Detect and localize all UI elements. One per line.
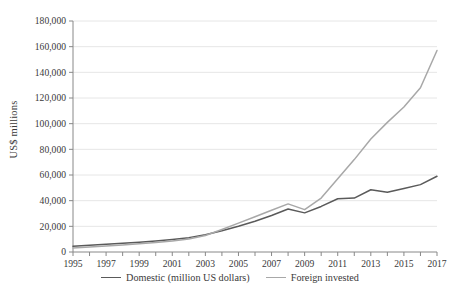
y-tick-label: 120,000 bbox=[35, 92, 66, 103]
x-tick-label: 2007 bbox=[262, 258, 281, 269]
gridline-group bbox=[73, 21, 437, 226]
x-tick-label: 1997 bbox=[96, 258, 115, 269]
x-tick-label: 2015 bbox=[394, 258, 413, 269]
y-tick-label: 80,000 bbox=[40, 144, 67, 155]
y-tick-label: 100,000 bbox=[35, 118, 66, 129]
legend-label-foreign: Foreign invested bbox=[291, 272, 359, 283]
x-tick-label: 2011 bbox=[328, 258, 347, 269]
y-tick-label: 180,000 bbox=[35, 15, 66, 26]
y-tick-label: 20,000 bbox=[40, 221, 67, 232]
x-tick-label: 2001 bbox=[163, 258, 182, 269]
line-chart-plot: 020,00040,00060,00080,000100,000120,0001… bbox=[0, 0, 460, 270]
y-axis-ticks bbox=[69, 21, 73, 252]
legend-item-domestic: Domestic (million US dollars) bbox=[101, 272, 250, 283]
chart-legend: Domestic (million US dollars) Foreign in… bbox=[0, 272, 460, 283]
x-tick-label: 2013 bbox=[361, 258, 380, 269]
y-tick-label: 140,000 bbox=[35, 67, 66, 78]
y-tick-label: 40,000 bbox=[40, 195, 67, 206]
legend-item-foreign: Foreign invested bbox=[266, 272, 359, 283]
x-tick-label: 2005 bbox=[229, 258, 248, 269]
x-axis-tick-labels: 1995199719992001200320052007200920112013… bbox=[63, 258, 446, 269]
legend-swatch-foreign bbox=[266, 277, 286, 278]
x-tick-label: 2009 bbox=[295, 258, 314, 269]
y-tick-label: 60,000 bbox=[40, 169, 67, 180]
series-line-domestic bbox=[73, 176, 437, 246]
x-axis-ticks bbox=[73, 252, 437, 256]
y-tick-label: 0 bbox=[61, 246, 66, 257]
y-axis-tick-labels: 020,00040,00060,00080,000100,000120,0001… bbox=[35, 15, 66, 257]
chart-container: US$ millions 020,00040,00060,00080,00010… bbox=[0, 0, 460, 298]
x-tick-label: 2003 bbox=[196, 258, 215, 269]
x-tick-label: 2017 bbox=[427, 258, 446, 269]
x-tick-label: 1999 bbox=[130, 258, 149, 269]
x-tick-label: 1995 bbox=[63, 258, 82, 269]
legend-label-domestic: Domestic (million US dollars) bbox=[126, 272, 250, 283]
y-tick-label: 160,000 bbox=[35, 41, 66, 52]
legend-swatch-domestic bbox=[101, 277, 121, 278]
